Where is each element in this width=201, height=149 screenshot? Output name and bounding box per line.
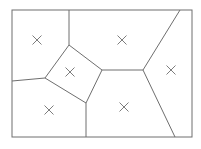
site-marker-bottom-left xyxy=(45,106,54,115)
voronoi-edge xyxy=(143,10,180,70)
site-marker-top-center xyxy=(118,36,127,45)
voronoi-edge xyxy=(86,70,102,103)
voronoi-sites xyxy=(33,36,176,115)
site-marker-right xyxy=(167,66,176,75)
site-marker-top-left xyxy=(33,36,42,45)
voronoi-edge xyxy=(143,70,175,137)
voronoi-edges xyxy=(12,10,180,137)
voronoi-edge xyxy=(12,78,45,81)
site-marker-bottom-center xyxy=(120,103,129,112)
voronoi-edge xyxy=(45,45,69,78)
bounding-frame xyxy=(12,10,192,137)
site-marker-center-quad xyxy=(66,68,75,77)
voronoi-edge xyxy=(69,45,102,70)
voronoi-edge xyxy=(45,78,86,103)
voronoi-diagram xyxy=(0,0,201,149)
